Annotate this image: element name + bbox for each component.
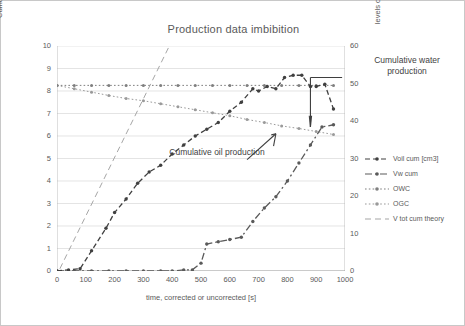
y-axis-left-tick: 5 [31,154,51,163]
chart-container: Production data imbibition Cumulative vo… [0,0,465,326]
x-axis-tick: 100 [74,275,98,284]
legend-item-label: OGC [393,200,409,207]
y-axis-right-tick: 10 [350,229,370,238]
plot-area [57,46,345,271]
y-axis-left-tick: 7 [31,109,51,118]
y-axis-right-tick: 40 [350,116,370,125]
y-axis-right-tick: 50 [350,79,370,88]
y-axis-right-label: levels of interfaces in burette, height … [373,0,382,41]
x-axis-label: time, corrected or uncorrected [s] [57,293,345,302]
legend-item-label: OWC [393,185,410,192]
y-axis-left-tick: 9 [31,64,51,73]
chart-legend: Voil cum [cm3]Vw cumOWCOGCV tot cum theo… [364,151,460,226]
y-axis-left-tick: 8 [31,86,51,95]
x-axis-tick: 500 [189,275,213,284]
y-axis-left-tick: 4 [31,176,51,185]
x-axis-tick: 0 [45,275,69,284]
y-axis-left-tick: 6 [31,131,51,140]
x-axis-tick: 600 [218,275,242,284]
legend-item: OWC [364,181,460,196]
y-axis-right-tick: 60 [350,41,370,50]
legend-item-label: Vw cum [393,170,418,177]
annotation-oil-production: Cumulative oil production [169,147,265,158]
legend-item-label: V tot cum theory [393,215,444,222]
legend-item: Vw cum [364,166,460,181]
y-axis-left-label: Cumulative volumes [cm3] [0,0,4,49]
y-axis-right-tick: 0 [350,266,370,275]
x-axis-tick: 300 [131,275,155,284]
legend-item-label: Voil cum [cm3] [393,155,439,162]
x-axis-tick: 400 [160,275,184,284]
y-axis-left-tick: 2 [31,221,51,230]
x-axis-tick: 800 [275,275,299,284]
annotation-water-production: Cumulative water production [357,55,457,76]
x-axis-tick: 900 [304,275,328,284]
x-axis-tick: 200 [103,275,127,284]
y-axis-left-tick: 1 [31,244,51,253]
chart-title: Production data imbibition [1,23,465,35]
x-axis-tick: 700 [247,275,271,284]
y-axis-left-tick: 0 [31,266,51,275]
legend-item: Voil cum [cm3] [364,151,460,166]
x-axis-tick: 1000 [333,275,357,284]
y-axis-left-tick: 3 [31,199,51,208]
legend-item: OGC [364,196,460,211]
legend-item: V tot cum theory [364,211,460,226]
y-axis-left-tick: 10 [31,41,51,50]
